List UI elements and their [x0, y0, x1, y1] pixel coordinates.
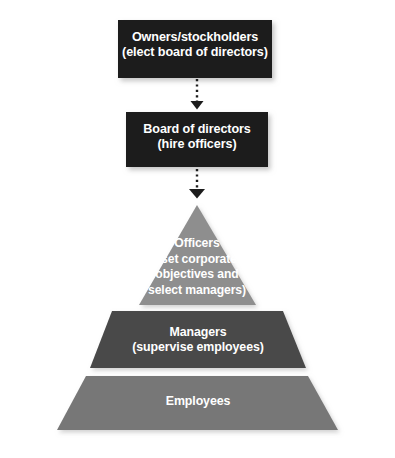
managers-tier-shape [90, 311, 306, 368]
diagram-canvas [0, 0, 395, 458]
arrowhead-down-icon [191, 101, 204, 110]
corporate-hierarchy-diagram: Owners/stockholders (elect board of dire… [0, 0, 395, 458]
arrowhead-down-icon [189, 189, 205, 199]
employees-tier-shape [57, 376, 338, 430]
owners-to-board-connector [191, 79, 204, 110]
owners-box [118, 20, 272, 78]
board-to-officers-connector [189, 169, 205, 199]
officers-tier-shape [139, 205, 256, 305]
board-box [126, 112, 268, 167]
